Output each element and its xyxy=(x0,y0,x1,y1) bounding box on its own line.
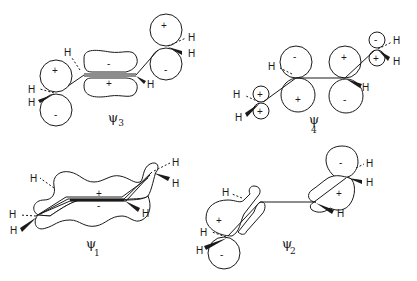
psi1-h-label: H xyxy=(9,209,16,220)
psi3-label: ψ3 xyxy=(108,110,124,128)
psi1-h-label: H xyxy=(10,225,17,236)
psi2-right-bottom-lobe xyxy=(309,176,355,212)
psi4-h-label: H xyxy=(393,56,400,67)
psi2-h-label: H xyxy=(366,177,373,188)
orbital-psi4: + + - + + - - + H H H H H H ψ4 xyxy=(233,32,400,135)
psi4-h-label: H xyxy=(268,61,275,72)
psi2-h-label: H xyxy=(337,208,344,219)
psi3-h-label: H xyxy=(188,32,195,43)
psi4-h-label: H xyxy=(233,89,240,100)
psi4-sign-c3-top: + xyxy=(341,52,347,63)
psi1-label: ψ1 xyxy=(86,236,100,258)
psi3-h-label: H xyxy=(28,84,35,95)
psi1-h-label: H xyxy=(172,178,179,189)
psi1-h-label: H xyxy=(172,157,179,168)
psi1-h-label: H xyxy=(142,208,149,219)
psi2-h-label: H xyxy=(366,158,373,169)
psi4-h-label: H xyxy=(362,82,369,93)
psi3-sign-left-top: + xyxy=(52,65,58,76)
psi3-h-label: H xyxy=(188,48,195,59)
orbital-psi1: + - H H H H H H ψ1 xyxy=(9,157,179,258)
orbital-psi3: + - - + + - H H H H H H ψ3 xyxy=(28,14,195,128)
psi3-sign-center-top: - xyxy=(107,58,110,69)
psi4-h-label: H xyxy=(393,35,400,46)
psi4-sign-c2-top: - xyxy=(293,51,296,62)
psi3-sign-center-bottom: + xyxy=(106,78,112,89)
psi4-label: ψ4 xyxy=(309,112,319,135)
orbital-psi2: + - - + H H H H H H ψ2 xyxy=(196,146,373,269)
psi2-sign-left-bottom: - xyxy=(220,249,223,260)
psi2-h-label: H xyxy=(196,245,203,256)
psi2-label: ψ2 xyxy=(282,236,296,256)
psi3-h-label: H xyxy=(28,97,35,108)
psi2-h-label: H xyxy=(222,187,229,198)
psi2-left-bottom-lobe xyxy=(208,237,240,269)
psi3-h-label: H xyxy=(147,79,154,90)
psi2-h-label: H xyxy=(200,227,207,238)
psi4-sign-c1-top: + xyxy=(257,89,263,100)
psi4-sign-c1-bottom: + xyxy=(257,106,263,117)
psi1-h-label: H xyxy=(30,173,37,184)
psi3-center-top-lobe xyxy=(84,50,137,72)
psi3-sign-right-top: + xyxy=(161,20,167,31)
psi2-sign-right-bottom: + xyxy=(336,188,342,199)
psi3-h-label: H xyxy=(64,47,71,58)
psi2-sign-right-top: - xyxy=(339,157,342,168)
psi2-sign-left-top: + xyxy=(216,215,222,226)
psi3-sign-right-bottom: - xyxy=(164,64,167,75)
psi4-sign-c4-top: - xyxy=(374,34,377,45)
butadiene-mo-diagram: + - - + + - H H H H H H ψ3 + xyxy=(0,0,417,281)
psi4-sign-c2-bottom: + xyxy=(295,94,301,105)
psi1-sign-bottom: - xyxy=(97,200,100,211)
psi3-sign-left-bottom: - xyxy=(54,109,57,120)
psi4-h-label: H xyxy=(235,112,242,123)
psi4-sign-c3-bottom: - xyxy=(343,94,346,105)
psi4-sign-c4-bottom: + xyxy=(373,53,379,64)
